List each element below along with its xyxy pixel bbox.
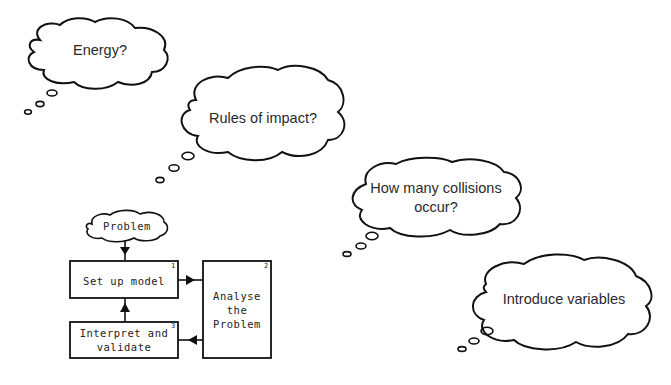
thought-bubble xyxy=(366,232,378,240)
thought-bubble xyxy=(25,110,32,114)
step-label-setup: Set up model xyxy=(83,274,165,288)
thought-bubble xyxy=(469,338,479,344)
step-label-line: Problem xyxy=(213,317,261,331)
thought-bubble xyxy=(356,243,366,249)
arrowhead xyxy=(186,275,195,285)
thought-bubble xyxy=(343,252,351,257)
thought-text-line: occur? xyxy=(370,198,501,217)
thought-text-rules: Rules of impact? xyxy=(209,109,317,128)
thought-bubble xyxy=(156,177,164,182)
step-label-interpret: Interpret and validate xyxy=(80,326,169,354)
step-label-analyse: Analyse the Problem xyxy=(213,289,261,331)
thought-text-collisions: How many collisions occur? xyxy=(370,179,501,217)
arrowhead xyxy=(120,247,130,255)
problem-label: Problem xyxy=(103,219,151,233)
arrowhead xyxy=(120,303,130,312)
step-label-line: the xyxy=(213,303,261,317)
thought-bubble xyxy=(182,152,194,160)
thought-bubble xyxy=(47,90,57,96)
step-number-1: 1 xyxy=(171,262,175,270)
thought-bubble xyxy=(169,165,179,171)
step-number-3: 3 xyxy=(171,322,175,330)
thought-text-variables: Introduce variables xyxy=(503,290,626,309)
step-number-2: 2 xyxy=(264,262,268,270)
step-label-line: Analyse xyxy=(213,289,261,303)
thought-text-line: How many collisions xyxy=(370,179,501,198)
thought-text-energy: Energy? xyxy=(73,41,127,60)
thought-bubble xyxy=(458,347,466,352)
arrowhead xyxy=(188,335,197,345)
thought-bubble xyxy=(36,101,44,106)
step-label-line: validate xyxy=(80,340,169,354)
step-label-line: Interpret and xyxy=(80,326,169,340)
